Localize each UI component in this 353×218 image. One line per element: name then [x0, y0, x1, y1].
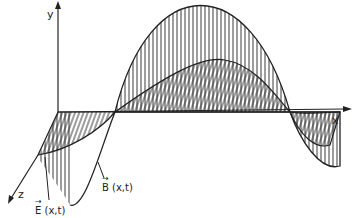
x-arrow-icon: [343, 106, 352, 112]
y-axis-label: y: [47, 8, 54, 21]
y-arrow-icon: [55, 1, 61, 9]
e-field-label: E (x,t): [35, 205, 65, 216]
z-arrow-icon: [8, 195, 14, 204]
b-field-label: B (x,t): [102, 182, 133, 193]
e-field-wave: [38, 59, 340, 155]
z-axis-label: z: [18, 188, 24, 201]
z-axis: [10, 155, 38, 200]
em-wave-diagram: y x z → E (x,t) → B (x,t): [0, 0, 353, 218]
x-axis-label: x: [332, 114, 339, 127]
